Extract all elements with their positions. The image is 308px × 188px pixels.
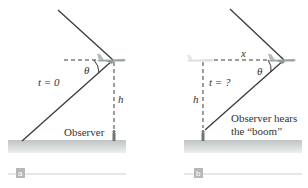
sonic-boom-diagram: θ t = 0 h Observer a x θ t = ? h Ob: [0, 0, 308, 188]
time-label: t = ?: [209, 76, 231, 88]
panel-tag-a-label: a: [18, 169, 23, 178]
angle-arc: [268, 60, 271, 72]
panel-a: θ t = 0 h Observer a: [8, 10, 126, 178]
ghost-airplane-icon: [187, 55, 214, 62]
height-label: h: [193, 93, 199, 105]
angle-label: θ: [257, 65, 263, 77]
observer-label: Observer: [64, 126, 105, 138]
observer-icon: [113, 130, 116, 141]
panel-tag-b-label: b: [196, 169, 201, 178]
height-label: h: [118, 93, 124, 105]
shock-front-upper: [58, 10, 113, 60]
angle-label: θ: [84, 64, 90, 76]
angle-arc: [94, 60, 99, 73]
observer-icon: [202, 130, 205, 141]
time-label: t = 0: [38, 76, 60, 88]
observer-label-line1: Observer hears: [231, 112, 297, 124]
ground: [8, 140, 126, 153]
panel-b: x θ t = ? h Observer hears the “boom” b: [184, 9, 302, 178]
ground: [184, 140, 302, 153]
distance-label: x: [240, 47, 246, 59]
shock-front-upper: [230, 9, 284, 60]
observer-label-line2: the “boom”: [231, 125, 282, 137]
